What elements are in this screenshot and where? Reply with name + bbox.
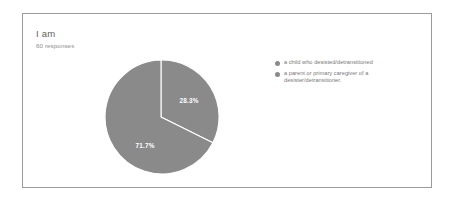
pie-slice-1-label: 28.3% [179, 97, 198, 104]
legend-item-child[interactable]: a child who desisted/detransitioned [275, 59, 415, 66]
pie-slice-2-label: 71.7% [135, 142, 154, 149]
response-count: 60 responses [36, 42, 74, 50]
legend-item-parent[interactable]: a parent or primary caregiver of a desis… [275, 70, 415, 84]
survey-result-card: I am 60 responses 28.3% 71.7% a child wh… [22, 13, 432, 188]
chart-legend: a child who desisted/detransitioned a pa… [275, 59, 415, 88]
question-header: I am 60 responses [36, 28, 74, 50]
question-title: I am [36, 28, 74, 39]
pie-chart: 28.3% 71.7% [101, 57, 221, 177]
pie-chart-svg: 28.3% 71.7% [101, 57, 221, 177]
legend-swatch-parent-icon [275, 72, 280, 77]
legend-label-parent: a parent or primary caregiver of a desis… [284, 70, 415, 84]
legend-swatch-child-icon [275, 61, 280, 66]
screenshot-root: I am 60 responses 28.3% 71.7% a child wh… [0, 0, 455, 202]
legend-label-child: a child who desisted/detransitioned [284, 59, 373, 66]
